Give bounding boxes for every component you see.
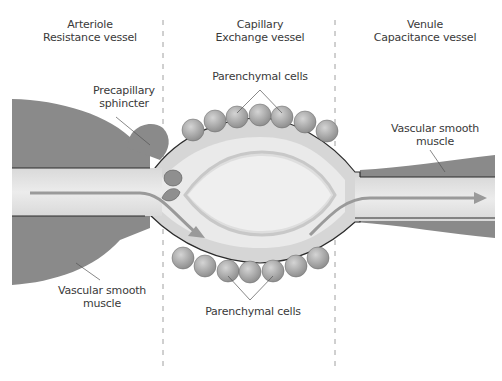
precapillary-sphincter-label: Precapillary sphincter <box>88 84 160 110</box>
parenchymal-cells-bottom-label: Parenchymal cells <box>198 305 308 318</box>
vascular-smooth-muscle-left-label: Vascular smooth muscle <box>52 284 152 310</box>
label-line: Vascular smooth <box>52 284 152 297</box>
section-venule-subtitle: Capacitance vessel <box>365 31 485 44</box>
microcirculation-diagram <box>0 0 502 381</box>
label-line: sphincter <box>88 97 160 110</box>
section-arteriole-title: Arteriole <box>40 18 140 31</box>
parenchymal-cells-top-label: Parenchymal cells <box>205 70 315 83</box>
section-capillary-subtitle: Exchange vessel <box>205 31 315 44</box>
section-arteriole-subtitle: Resistance vessel <box>40 31 140 44</box>
section-venule-title: Venule <box>365 18 485 31</box>
label-line: muscle <box>385 135 485 148</box>
section-capillary-title: Capillary <box>205 18 315 31</box>
section-capillary-label: Capillary Exchange vessel <box>205 18 315 44</box>
label-line: muscle <box>52 297 152 310</box>
vascular-smooth-muscle-right-label: Vascular smooth muscle <box>385 122 485 148</box>
section-arteriole-label: Arteriole Resistance vessel <box>40 18 140 44</box>
label-line: Precapillary <box>88 84 160 97</box>
section-venule-label: Venule Capacitance vessel <box>365 18 485 44</box>
label-line: Vascular smooth <box>385 122 485 135</box>
